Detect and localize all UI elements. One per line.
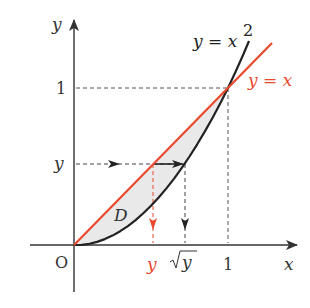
svg-text:y: y (181, 252, 192, 272)
y-level-label: y (53, 153, 64, 173)
tick-x-one: 1 (223, 255, 233, 274)
arrow-down-icon (149, 218, 157, 230)
parabola-curve (74, 41, 249, 245)
region-d-label: D (113, 205, 128, 225)
diagram-canvas: y x O 1 1 y D y y y = x 2 y = x (0, 0, 310, 308)
svg-text:y = x: y = x (192, 31, 238, 51)
svg-text:2: 2 (243, 21, 253, 40)
x-axis-label: x (284, 254, 294, 274)
sqrt-y-label: y (170, 251, 197, 272)
line-y-equals-x (74, 43, 272, 245)
arrow-down-icon (181, 218, 189, 230)
arrow-right-icon (108, 160, 120, 168)
tick-y-one: 1 (56, 79, 66, 98)
origin-label: O (55, 253, 68, 272)
parabola-label: y = x 2 (192, 21, 253, 51)
x-line-label: y (146, 254, 157, 274)
line-label: y = x (247, 70, 293, 90)
y-axis-label: y (51, 14, 62, 34)
